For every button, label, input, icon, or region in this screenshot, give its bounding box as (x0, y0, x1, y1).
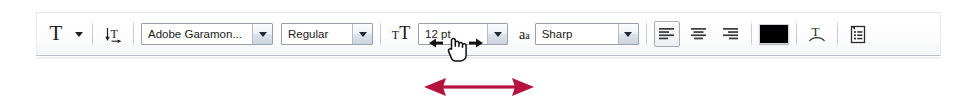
chevron-down-icon (259, 32, 267, 37)
anti-aliasing-small-glyph: a (525, 30, 529, 41)
separator (133, 21, 134, 47)
align-right-button[interactable] (718, 21, 744, 47)
type-tool-options-bar: T T Adobe Garamon... Regular (36, 12, 941, 56)
font-style-dropdown-button[interactable] (352, 24, 372, 44)
svg-text:T: T (110, 27, 118, 41)
font-family-value[interactable]: Adobe Garamon... (142, 24, 252, 44)
font-style-value[interactable]: Regular (282, 24, 352, 44)
font-size-dropdown-button[interactable] (487, 24, 507, 44)
separator (92, 21, 93, 47)
font-size-value[interactable]: 12 pt (419, 24, 487, 44)
paragraph-alignment-group (654, 21, 744, 47)
caret-down-icon[interactable] (75, 32, 83, 37)
warp-text-icon[interactable]: T (804, 21, 830, 47)
separator (796, 21, 797, 47)
separator (751, 21, 752, 47)
align-left-button[interactable] (654, 21, 680, 47)
anti-aliasing-dropdown-button[interactable] (618, 24, 638, 44)
type-tool-icon[interactable]: T (43, 21, 69, 47)
align-center-button[interactable] (686, 21, 712, 47)
toggle-text-orientation-icon[interactable]: T (100, 21, 126, 47)
separator (380, 21, 381, 47)
svg-text:T: T (811, 24, 819, 39)
font-size-glyphs: TT (392, 24, 410, 44)
chevron-down-icon (359, 32, 367, 37)
separator (646, 21, 647, 47)
anti-aliasing-value[interactable]: Sharp (536, 24, 618, 44)
options-bar-shadow (36, 57, 941, 59)
separator (837, 21, 838, 47)
font-style-combo[interactable]: Regular (281, 23, 373, 45)
text-color-swatch[interactable] (759, 24, 789, 44)
drag-direction-arrow (424, 76, 534, 98)
tool-preset-group[interactable]: T (43, 21, 85, 47)
font-family-combo[interactable]: Adobe Garamon... (141, 23, 273, 45)
font-size-large-glyph: T (399, 23, 410, 43)
anti-aliasing-combo[interactable]: Sharp (535, 23, 639, 45)
font-family-dropdown-button[interactable] (252, 24, 272, 44)
character-paragraph-panels-icon[interactable] (845, 21, 871, 47)
anti-aliasing-icon: aa (519, 26, 530, 43)
font-size-combo[interactable]: 12 pt (418, 23, 508, 45)
chevron-down-icon (494, 32, 502, 37)
type-tool-glyph: T (50, 23, 63, 46)
font-size-icon[interactable]: TT (388, 21, 414, 47)
chevron-down-icon (624, 32, 632, 37)
